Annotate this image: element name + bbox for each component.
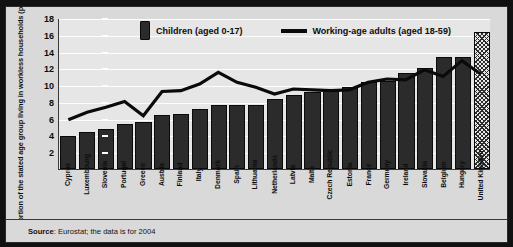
x-tick-label: Luxembourg	[83, 154, 90, 195]
x-tick-label: Slovakia	[421, 161, 428, 188]
x-tick-label: Hungary	[458, 161, 465, 188]
y-tick-mark	[102, 35, 108, 37]
y-tick-mark	[102, 18, 108, 20]
legend-label-working-age: Working-age adults (aged 18-59)	[313, 26, 451, 36]
legend-label-children: Children (aged 0-17)	[156, 26, 243, 36]
x-tick-label: France	[364, 164, 371, 186]
x-tick-label: Denmark	[214, 160, 221, 189]
y-tick-mark	[102, 119, 108, 121]
line-series	[59, 19, 490, 169]
x-tick-label: Cyprus	[64, 163, 71, 186]
figure-frame: Proportion of the stated age group livin…	[0, 0, 513, 247]
x-tick-label: Lithuania	[252, 160, 259, 190]
plot-area	[58, 19, 490, 170]
source-note: Source: Eurostat; the data is for 2004	[28, 227, 155, 236]
source-label: Source	[28, 227, 54, 236]
y-tick-mark	[102, 135, 108, 137]
bar-swatch-icon	[140, 21, 150, 40]
y-tick-label: 10	[44, 81, 54, 91]
y-tick-label: 12	[44, 64, 54, 74]
y-tick-mark	[102, 85, 108, 87]
x-tick-label: Czech Republic	[327, 150, 334, 200]
x-tick-label: Estonia	[346, 162, 353, 186]
y-tick-mark	[102, 68, 108, 70]
y-tick-mark	[102, 152, 108, 154]
y-tick-label: 18	[44, 14, 54, 24]
x-tick-label: Finland	[177, 163, 184, 187]
line-swatch-icon	[281, 29, 307, 33]
x-tick-label: Greece	[139, 163, 146, 186]
x-tick-label: Belgium	[440, 161, 447, 187]
y-tick-label: 6	[49, 115, 54, 125]
working-age-line	[68, 61, 480, 120]
y-tick-mark	[102, 102, 108, 104]
chart-legend: Children (aged 0-17) Working-age adults …	[140, 21, 451, 40]
x-tick-label: Italy	[195, 168, 202, 181]
y-tick-label: 14	[44, 48, 54, 58]
x-tick-label: Portugal	[120, 161, 127, 188]
y-tick-label: 16	[44, 31, 54, 41]
x-tick-label: Ireland	[402, 164, 409, 186]
plot-wrapper: 24681012141618	[58, 19, 490, 170]
legend-item-working-age: Working-age adults (aged 18-59)	[281, 26, 451, 36]
x-tick-label: Netherlands	[270, 155, 277, 194]
x-tick-label: United Kingdom	[477, 149, 484, 201]
chart-panel: Proportion of the stated age group livin…	[5, 6, 508, 243]
y-axis-title-text: Proportion of the stated age group livin…	[16, 0, 25, 237]
y-tick-label: 4	[49, 131, 54, 141]
chart-footer: Source: Eurostat; the data is for 2004	[6, 219, 507, 242]
x-tick-label: Austria	[158, 163, 165, 186]
x-tick-label: Latvia	[289, 165, 296, 184]
x-tick-label: Spain	[233, 165, 240, 183]
x-tick-label: Slovenia	[101, 161, 108, 189]
x-tick-label: Malta	[308, 166, 315, 183]
y-tick-label: 2	[49, 148, 54, 158]
source-value: : Eurostat; the data is for 2004	[54, 227, 156, 236]
y-tick-mark	[102, 52, 108, 54]
y-tick-label: 8	[49, 98, 54, 108]
y-axis-title: Proportion of the stated age group livin…	[10, 23, 30, 195]
legend-item-children: Children (aged 0-17)	[140, 21, 243, 40]
x-tick-label: Germany	[383, 160, 390, 189]
